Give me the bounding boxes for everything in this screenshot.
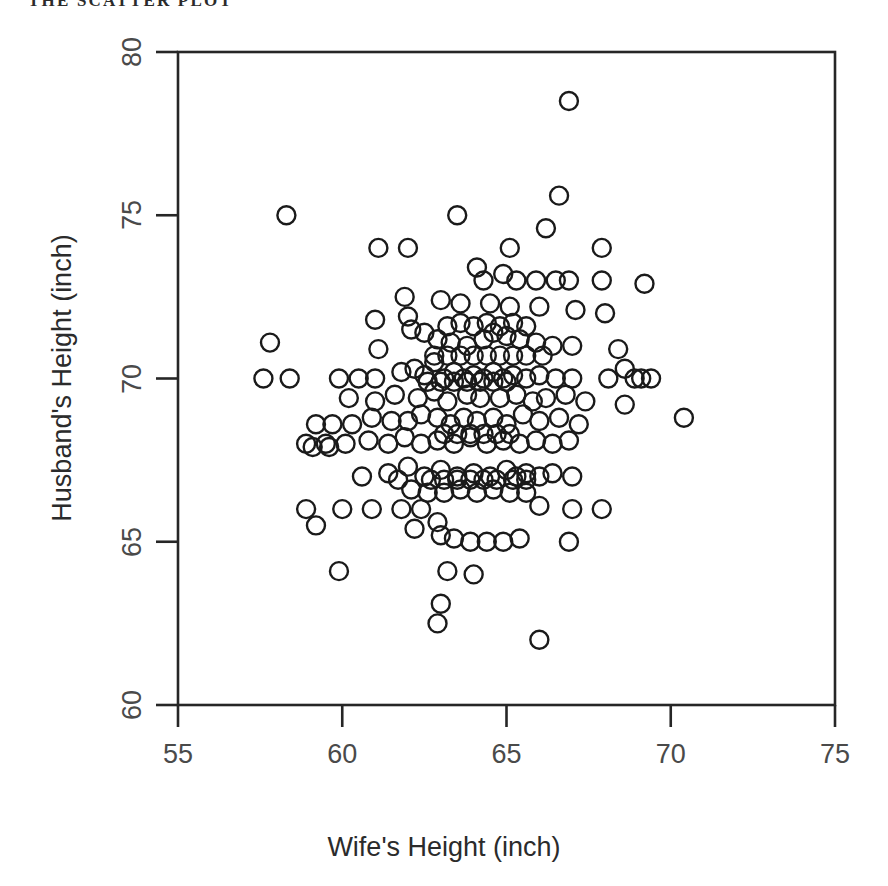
x-axis-title: Wife's Height (inch) [327, 832, 560, 863]
data-point [402, 481, 420, 499]
data-point [593, 500, 611, 518]
data-point [432, 526, 450, 544]
data-point [527, 432, 545, 450]
data-point [593, 272, 611, 290]
data-point [340, 389, 358, 407]
data-point [429, 614, 447, 632]
x-axis-ticks [178, 705, 835, 727]
data-point [445, 529, 463, 547]
data-point [399, 307, 417, 325]
data-point [432, 291, 450, 309]
data-point [399, 458, 417, 476]
data-point [261, 334, 279, 352]
data-point [501, 298, 519, 316]
data-point [307, 516, 325, 534]
data-point [563, 467, 581, 485]
data-point [412, 500, 430, 518]
data-point [366, 311, 384, 329]
data-point [363, 409, 381, 427]
x-tick-label-70: 70 [656, 739, 686, 770]
data-point [576, 392, 594, 410]
data-point [517, 370, 535, 388]
data-point [360, 432, 378, 450]
data-point [337, 435, 355, 453]
data-point [343, 415, 361, 433]
data-point [511, 529, 529, 547]
data-point [481, 294, 499, 312]
data-point [530, 497, 548, 515]
x-tick-label-55: 55 [163, 739, 193, 770]
axes-box [178, 52, 835, 705]
y-axis-title: Husband's Height (inch) [47, 234, 78, 521]
axes-frame [178, 52, 835, 705]
data-point [563, 500, 581, 518]
y-tick-label-80: 80 [117, 37, 148, 67]
y-tick-label-75: 75 [117, 200, 148, 230]
data-point [429, 513, 447, 531]
scatter-markers [254, 92, 692, 649]
data-point [363, 500, 381, 518]
data-point [438, 317, 456, 335]
data-point [412, 435, 430, 453]
data-point [560, 92, 578, 110]
data-point [399, 239, 417, 257]
data-point [596, 304, 614, 322]
data-point [297, 500, 315, 518]
x-tick-label-65: 65 [491, 739, 521, 770]
scatter-plot-figure: 5560657075 6065707580 Wife's Height (inc… [0, 0, 888, 886]
data-point [369, 239, 387, 257]
data-point [465, 565, 483, 583]
data-point [557, 386, 575, 404]
y-axis-ticks [156, 52, 178, 705]
data-point [560, 432, 578, 450]
y-tick-label-70: 70 [117, 363, 148, 393]
data-point [609, 340, 627, 358]
data-point [530, 467, 548, 485]
data-point [484, 481, 502, 499]
data-point [524, 392, 542, 410]
data-point [570, 415, 588, 433]
data-point [353, 467, 371, 485]
data-point [563, 337, 581, 355]
data-point [386, 386, 404, 404]
data-point [438, 392, 456, 410]
data-point [599, 370, 617, 388]
data-point [402, 321, 420, 339]
data-point [511, 435, 529, 453]
data-point [281, 370, 299, 388]
data-point [543, 464, 561, 482]
x-tick-label-75: 75 [820, 739, 850, 770]
data-point [675, 409, 693, 427]
data-point [566, 301, 584, 319]
data-point [442, 334, 460, 352]
data-point [530, 412, 548, 430]
data-point [277, 206, 295, 224]
data-point [452, 481, 470, 499]
data-point [478, 435, 496, 453]
data-point [616, 396, 634, 414]
data-point [537, 219, 555, 237]
data-point [543, 337, 561, 355]
data-point [330, 370, 348, 388]
data-point [392, 500, 410, 518]
data-point [366, 392, 384, 410]
data-point [448, 206, 466, 224]
data-point [530, 631, 548, 649]
data-point [550, 187, 568, 205]
data-point [560, 533, 578, 551]
data-point [527, 272, 545, 290]
data-point [438, 562, 456, 580]
data-point [330, 562, 348, 580]
data-point [396, 288, 414, 306]
data-point [406, 520, 424, 538]
data-point [254, 370, 272, 388]
plot-canvas [0, 0, 888, 886]
data-point [392, 363, 410, 381]
data-point [432, 595, 450, 613]
data-point [560, 272, 578, 290]
y-tick-label-65: 65 [117, 527, 148, 557]
data-point [333, 500, 351, 518]
data-point [501, 239, 519, 257]
y-tick-label-60: 60 [117, 690, 148, 720]
x-tick-label-60: 60 [327, 739, 357, 770]
